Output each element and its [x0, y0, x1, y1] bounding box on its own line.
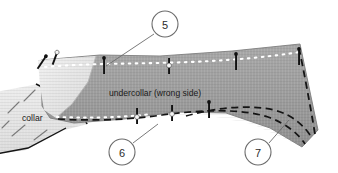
- callout-7[interactable]: 7: [245, 139, 271, 165]
- callout-number: 5: [162, 19, 168, 31]
- callout-number: 7: [255, 147, 261, 159]
- sewing-diagram-figure: undercollar (wrong side) collar 5 6 7: [0, 0, 338, 173]
- callout-6[interactable]: 6: [109, 139, 135, 165]
- collar-label: collar: [22, 113, 43, 123]
- leader-line-6: [133, 124, 158, 143]
- undercollar-label: undercollar (wrong side): [109, 88, 201, 98]
- callout-number: 6: [119, 147, 125, 159]
- callout-5[interactable]: 5: [152, 11, 178, 37]
- diagram-canvas: undercollar (wrong side) collar 5 6 7: [0, 0, 338, 173]
